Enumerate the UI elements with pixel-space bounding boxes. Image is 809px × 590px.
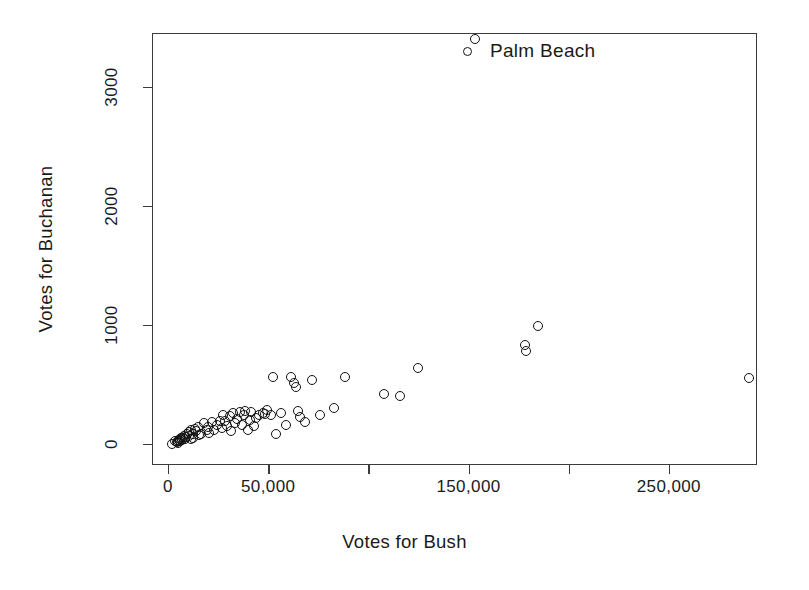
data-point: [413, 363, 423, 373]
data-point: [268, 372, 278, 382]
x-axis-tick-label: 50,000: [241, 477, 295, 497]
data-point: [379, 389, 389, 399]
data-point: [266, 410, 276, 420]
palm-beach-annotation-label: Palm Beach: [490, 40, 595, 62]
x-axis-tick: [569, 465, 570, 474]
x-axis-tick-label: 0: [163, 477, 173, 497]
y-axis-tick-label: 1000: [102, 305, 122, 344]
data-point: [300, 417, 310, 427]
x-axis-tick: [168, 465, 169, 474]
data-point: [521, 346, 531, 356]
data-point: [315, 410, 325, 420]
y-axis-tick: [143, 206, 152, 207]
y-axis-title: Votes for Buchanan: [35, 166, 57, 333]
y-axis-tick-label: 2000: [102, 186, 122, 225]
y-axis-tick: [143, 87, 152, 88]
x-axis-tick: [368, 465, 369, 474]
y-axis-tick-label: 0: [102, 439, 122, 449]
plot-area: [153, 34, 756, 464]
data-point: [307, 375, 317, 385]
y-axis-tick: [143, 325, 152, 326]
y-axis-tick-label: 3000: [102, 67, 122, 106]
data-point: [744, 373, 754, 383]
y-axis-tick: [143, 444, 152, 445]
data-point: [340, 372, 350, 382]
x-axis-tick-label: 250,000: [637, 477, 701, 497]
data-point: [329, 403, 339, 413]
open-circle-icon: [463, 47, 472, 56]
scan-edge: [0, 572, 809, 590]
palm-beach-annotation: Palm Beach: [463, 40, 595, 62]
x-axis-title: Votes for Bush: [0, 531, 809, 553]
data-point: [281, 420, 291, 430]
x-axis-tick: [669, 465, 670, 474]
data-point: [271, 429, 281, 439]
x-axis-tick-label: 150,000: [436, 477, 500, 497]
plot-box: [152, 33, 757, 465]
data-point: [395, 391, 405, 401]
x-axis-tick: [469, 465, 470, 474]
x-axis-tick: [268, 465, 269, 474]
scatter-plot-figure: 050,000150,000250,000 0100020003000 Vote…: [0, 0, 809, 590]
data-point: [276, 408, 286, 418]
data-point: [533, 321, 543, 331]
data-point: [291, 382, 301, 392]
